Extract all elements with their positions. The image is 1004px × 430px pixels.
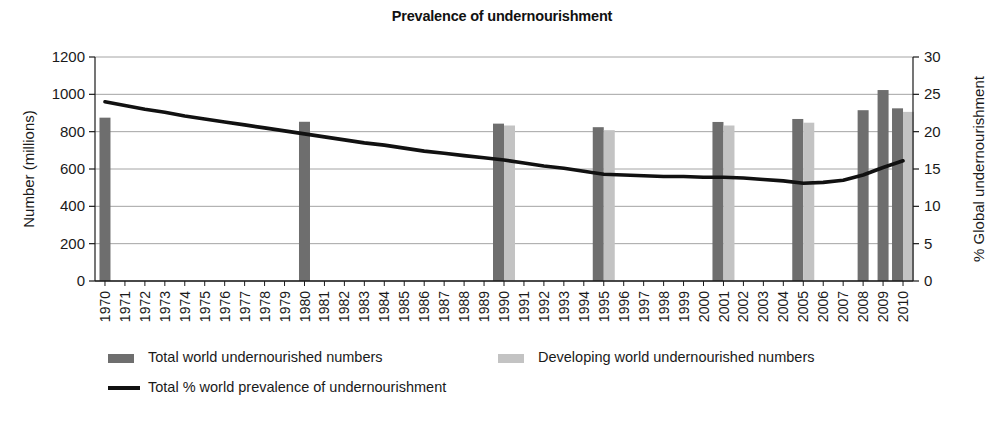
x-axis-label: 1981 <box>316 291 332 322</box>
bar <box>878 90 889 281</box>
x-axis-label: 1996 <box>616 291 632 322</box>
x-axis-label: 1999 <box>676 291 692 322</box>
y-axis-title: Number (millions) <box>20 110 37 228</box>
x-axis-label: 1977 <box>237 291 253 322</box>
bar <box>723 126 734 281</box>
bar <box>858 110 869 281</box>
x-axis-label: 2008 <box>855 291 871 322</box>
x-axis-label: 1990 <box>496 291 512 322</box>
x-axis-label: 1982 <box>336 291 352 322</box>
legend-item: Total world undernourished numbers <box>108 349 383 365</box>
y2-tick-label: 25 <box>924 85 941 102</box>
x-axis-label: 1986 <box>416 291 432 322</box>
y-tick-label: 200 <box>60 235 85 252</box>
y2-tick-label: 5 <box>924 235 932 252</box>
y2-tick-label: 0 <box>924 272 932 289</box>
x-axis-label: 2000 <box>696 291 712 322</box>
x-axis-label: 2004 <box>775 291 791 322</box>
legend-swatch <box>108 354 134 363</box>
x-axis-label: 1989 <box>476 291 492 322</box>
x-axis-label: 1988 <box>456 291 472 322</box>
bar <box>903 112 914 281</box>
y2-axis-title: % Global undernourishment <box>970 75 987 262</box>
bar <box>299 122 310 281</box>
bar <box>803 123 814 281</box>
bar <box>892 108 903 281</box>
legend-label: Total world undernourished numbers <box>148 349 383 365</box>
bar <box>712 122 723 281</box>
bar <box>593 127 604 281</box>
y2-tick-label: 15 <box>924 160 941 177</box>
legend-item: Total % world prevalence of undernourish… <box>108 379 446 395</box>
x-axis-label: 1978 <box>257 291 273 322</box>
x-axis-label: 1983 <box>356 291 372 322</box>
legend-swatch <box>498 354 524 363</box>
y-tick-label: 400 <box>60 197 85 214</box>
x-axis-label: 2009 <box>875 291 891 322</box>
x-axis-label: 1994 <box>576 291 592 322</box>
chart-legend: Total world undernourished numbersDevelo… <box>108 349 814 395</box>
x-axis-label: 1979 <box>277 291 293 322</box>
x-axis-label: 1985 <box>396 291 412 322</box>
x-axis-label: 2002 <box>735 291 751 322</box>
x-axis-label: 1973 <box>157 291 173 322</box>
bar <box>504 126 515 281</box>
y-tick-label: 600 <box>60 160 85 177</box>
x-axis-label: 1995 <box>596 291 612 322</box>
y2-tick-label: 10 <box>924 197 941 214</box>
x-axis-label: 1974 <box>177 291 193 322</box>
x-axis-label: 2005 <box>795 291 811 322</box>
bar <box>99 118 110 281</box>
x-axis-label: 1971 <box>117 291 133 322</box>
undernourishment-chart: 020040060080010001200051015202530 197019… <box>0 0 1004 430</box>
x-axis-label: 1987 <box>436 291 452 322</box>
x-axis-label: 2001 <box>716 291 732 322</box>
y-tick-label: 800 <box>60 123 85 140</box>
y-tick-label: 1000 <box>52 85 85 102</box>
y2-tick-label: 20 <box>924 123 941 140</box>
x-axis-label: 1980 <box>297 291 313 322</box>
y2-tick-label: 30 <box>924 48 941 65</box>
x-axis-label: 1970 <box>97 291 113 322</box>
x-axis-label: 2003 <box>755 291 771 322</box>
x-axis-label: 1992 <box>536 291 552 322</box>
legend-label: Developing world undernourished numbers <box>538 349 814 365</box>
x-axis-label: 1997 <box>636 291 652 322</box>
x-axis-label: 1975 <box>197 291 213 322</box>
y-tick-label: 1200 <box>52 48 85 65</box>
x-axis-label: 2007 <box>835 291 851 322</box>
legend-item: Developing world undernourished numbers <box>498 349 814 365</box>
x-axis-label: 1976 <box>217 291 233 322</box>
x-axis-label: 1998 <box>656 291 672 322</box>
chart-container: Prevalence of undernourishment 020040060… <box>0 0 1004 430</box>
x-axis-label: 1991 <box>516 291 532 322</box>
x-axis-label: 1993 <box>556 291 572 322</box>
bar <box>792 119 803 281</box>
x-axis-label: 1984 <box>376 291 392 322</box>
y-tick-label: 0 <box>77 272 85 289</box>
bar <box>493 124 504 281</box>
x-axis-label: 2010 <box>895 291 911 322</box>
bar-series-layer <box>99 90 914 281</box>
x-axis-label: 2006 <box>815 291 831 322</box>
x-axis-year-labels: 1970197119721973197419751976197719781979… <box>97 291 911 322</box>
legend-label: Total % world prevalence of undernourish… <box>148 379 446 395</box>
x-axis-label: 1972 <box>137 291 153 322</box>
bar <box>604 130 615 281</box>
